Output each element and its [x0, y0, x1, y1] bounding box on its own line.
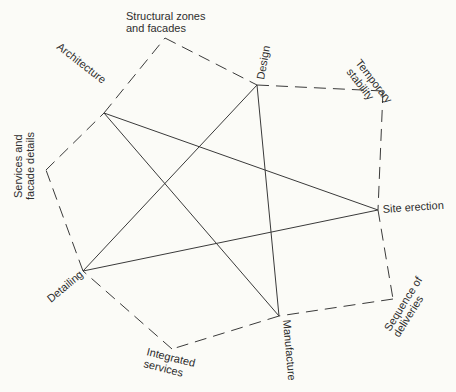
services-facade-line2: facade details [24, 132, 36, 200]
dash-site-seq [378, 210, 393, 299]
dash-detail-serv [46, 170, 83, 271]
label-design: Design [254, 45, 272, 81]
label-sequence-of-deliveries: Sequence of deliveries [382, 274, 426, 340]
dash-serv-arch [46, 113, 104, 170]
label-services-facade: Services and facade details [12, 132, 36, 200]
star-diagram: Architecture Design Site erection Manufa… [0, 0, 456, 392]
link-design-detailing [83, 85, 257, 271]
label-site-erection: Site erection [382, 199, 444, 215]
dash-arch-struct [104, 38, 165, 113]
structural-zones-line1: Structural zones [126, 10, 206, 22]
link-detailing-site-erection [83, 210, 378, 271]
dash-temp-site [378, 91, 383, 210]
dash-struct-design [165, 38, 257, 85]
dashed-outline [46, 38, 393, 349]
dash-integ-detail [83, 271, 172, 349]
label-architecture: Architecture [55, 40, 109, 86]
label-manufacture: Manufacture [281, 319, 298, 381]
link-architecture-site-erection [104, 113, 378, 210]
label-integrated-services: Integrated services [143, 345, 197, 379]
label-structural-zones: Structural zones and facades [126, 10, 206, 34]
dash-manu-integ [172, 316, 279, 349]
solid-links [83, 85, 378, 316]
services-facade-line1: Services and [12, 134, 24, 198]
label-temporary-stability: Temporary stability [344, 57, 395, 106]
structural-zones-line2: and facades [126, 22, 186, 34]
label-detailing: Detailing [45, 268, 86, 305]
dash-seq-manu [279, 299, 393, 316]
link-design-manufacture [257, 85, 279, 316]
